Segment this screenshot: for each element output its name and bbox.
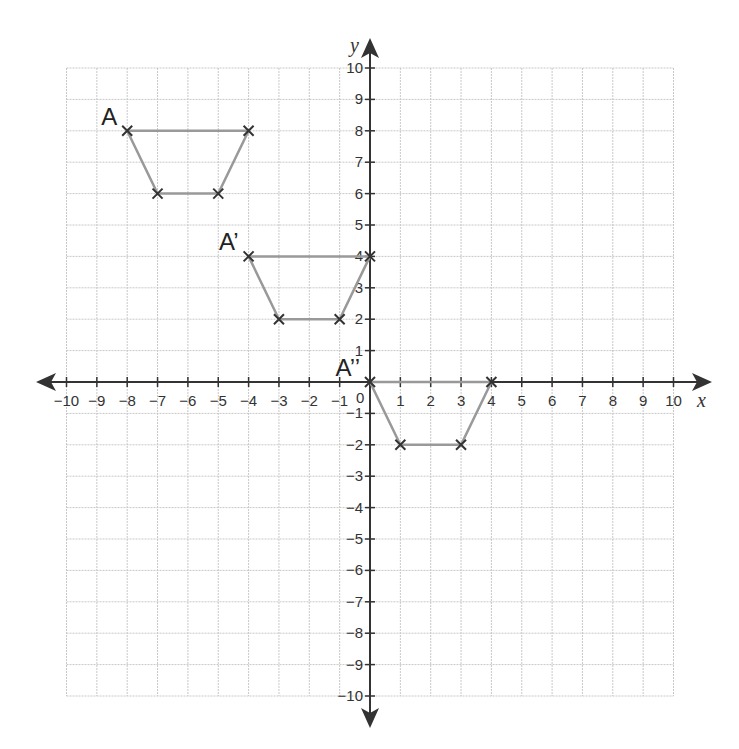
x-tick-label: −6 [179, 392, 196, 409]
x-tick-label: 9 [639, 392, 647, 409]
trapezoid-Ap: A’ [219, 228, 375, 324]
x-tick-label: 8 [609, 392, 617, 409]
x-tick-label: 6 [548, 392, 556, 409]
y-tick-label: 5 [355, 216, 363, 233]
origin-label: 0 [356, 389, 364, 406]
x-axis-label: x [696, 389, 706, 411]
x-tick-label: 10 [665, 392, 682, 409]
x-tick-label: 7 [578, 392, 586, 409]
trapezoid-A: A [101, 103, 253, 199]
y-tick-label: −9 [346, 656, 363, 673]
y-tick-label: −4 [346, 499, 363, 516]
y-tick-label: 6 [355, 185, 363, 202]
x-tick-label: −7 [149, 392, 166, 409]
x-tick-label: −5 [210, 392, 227, 409]
y-tick-label: 10 [346, 59, 363, 76]
x-tick-label: −4 [240, 392, 257, 409]
y-tick-label: −10 [338, 687, 363, 704]
y-axis-label: y [348, 34, 359, 57]
vertex-label: A [101, 103, 117, 130]
y-tick-label: −2 [346, 436, 363, 453]
vertex-label: A’ [219, 228, 239, 255]
x-tick-label: −3 [270, 392, 287, 409]
x-tick-label: 3 [457, 392, 465, 409]
x-tick-label: −2 [301, 392, 318, 409]
x-tick-label: −10 [54, 392, 79, 409]
x-tick-label: −8 [119, 392, 136, 409]
coordinate-plane: −10−9−8−7−6−5−4−3−2−112345678910−10−9−8−… [0, 0, 739, 749]
y-tick-label: −5 [346, 530, 363, 547]
y-tick-label: −8 [346, 624, 363, 641]
y-tick-label: 7 [355, 153, 363, 170]
y-tick-label: −7 [346, 593, 363, 610]
y-tick-label: −3 [346, 467, 363, 484]
y-tick-label: 2 [355, 310, 363, 327]
x-tick-label: −9 [88, 392, 105, 409]
y-tick-label: −6 [346, 561, 363, 578]
x-tick-label: 4 [487, 392, 495, 409]
y-tick-label: 8 [355, 122, 363, 139]
x-tick-label: 1 [396, 392, 404, 409]
x-tick-label: 2 [427, 392, 435, 409]
y-tick-label: −1 [346, 404, 363, 421]
y-tick-label: 9 [355, 90, 363, 107]
x-tick-label: 5 [518, 392, 526, 409]
vertex-label: A’’ [336, 354, 360, 381]
